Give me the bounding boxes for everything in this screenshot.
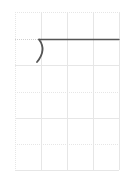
grid-diagram <box>0 0 127 178</box>
grid-lines <box>15 12 120 171</box>
diagram-canvas <box>0 0 127 178</box>
drawn-strokes <box>37 40 119 63</box>
